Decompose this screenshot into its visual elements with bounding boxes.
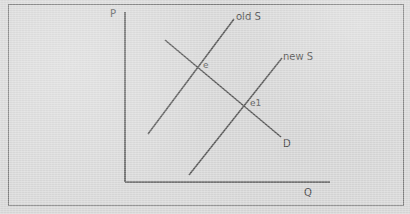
y-axis-label: P (110, 8, 116, 19)
old-supply-curve-label: old S (236, 11, 261, 22)
equilibrium-old-label: e (203, 60, 209, 71)
old-supply-curve (148, 19, 234, 134)
figure-canvas: P Q old S new S D e e1 (0, 0, 410, 214)
demand-curve-label: D (283, 138, 291, 149)
new-supply-curve-label: new S (283, 51, 313, 62)
x-axis-label: Q (304, 187, 312, 198)
new-supply-curve (189, 58, 282, 175)
equilibrium-new-label: e1 (250, 98, 261, 109)
supply-demand-plot (0, 0, 410, 214)
